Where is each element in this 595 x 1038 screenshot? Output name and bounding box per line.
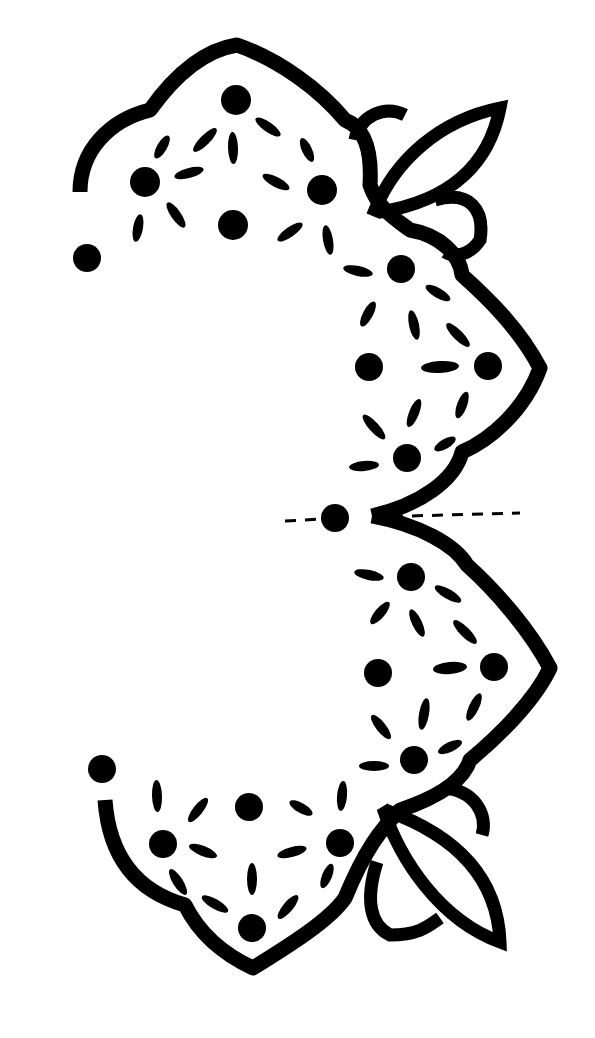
eyelet-dot — [88, 755, 116, 783]
bottom-leaf-motif — [371, 788, 500, 942]
petal-stitch — [317, 862, 336, 890]
petal-stitch — [450, 617, 480, 647]
petal-stitch — [404, 397, 425, 429]
eyelet-dot — [474, 352, 502, 380]
petal-stitch — [253, 114, 283, 139]
petal-stitch — [185, 795, 211, 825]
petal-stitch — [453, 390, 472, 420]
cutwork-pattern — [0, 0, 595, 1038]
petal-stitch — [357, 299, 379, 328]
petal-stitch — [463, 691, 485, 722]
eyelet-dot — [235, 793, 263, 821]
petal-stitch — [276, 843, 308, 860]
petal-stitch — [406, 607, 428, 638]
petal-stitch — [433, 661, 468, 676]
petal-stitch — [227, 132, 238, 164]
petal-stitch — [320, 224, 335, 255]
petal-stitch — [247, 863, 257, 895]
petal-stitch — [360, 412, 389, 442]
eyelet-dot — [326, 829, 354, 857]
petal-stitch — [443, 320, 473, 350]
petal-stitch — [297, 136, 317, 164]
petal-stitch — [260, 171, 291, 194]
petal-stitch — [421, 360, 460, 374]
petal-stitch — [275, 219, 305, 244]
petal-stitch — [131, 213, 146, 242]
fold-line-left — [285, 519, 322, 521]
eyelet-dot — [130, 167, 160, 197]
petal-stitch — [406, 309, 422, 340]
petal-stitch — [367, 599, 393, 627]
petal-stitch — [190, 125, 220, 155]
bottom-scallop-outline — [105, 516, 550, 968]
eyelet-dot — [397, 563, 425, 591]
petal-stitch — [151, 780, 162, 812]
eyelet-dots — [73, 85, 508, 942]
eyelet-dot — [393, 444, 421, 472]
petal-stitch — [287, 797, 315, 819]
petal-stitch — [187, 841, 219, 862]
petal-stitch — [173, 164, 205, 181]
petal-stitch — [359, 761, 389, 771]
fold-center-dot — [321, 504, 349, 532]
eyelet-dot — [307, 175, 337, 205]
petal-stitch — [416, 697, 431, 730]
petal-stitch — [349, 460, 380, 473]
eyelet-dot — [400, 746, 428, 774]
petal-stitch — [432, 434, 458, 455]
petal-stitch — [342, 263, 373, 279]
petal-stitch — [200, 892, 231, 916]
eyelet-dot — [73, 244, 101, 272]
petal-stitch — [151, 133, 173, 161]
petal-stitch — [275, 892, 302, 921]
petal-stitch — [336, 781, 349, 812]
eyelet-dot — [221, 85, 251, 115]
petal-stitch — [163, 200, 188, 230]
eyelet-dot — [355, 353, 383, 381]
petal-stitch — [368, 712, 394, 742]
eyelet-dot — [238, 914, 266, 942]
eyelet-dot — [364, 659, 392, 687]
eyelet-dot — [149, 830, 177, 858]
eyelet-dot — [218, 210, 248, 240]
petal-stitch — [433, 582, 464, 606]
eyelet-dot — [387, 255, 415, 283]
eyelet-dot — [480, 653, 508, 681]
petal-stitch — [423, 282, 452, 305]
petal-stitch — [436, 737, 464, 757]
petal-stitch — [353, 567, 384, 583]
